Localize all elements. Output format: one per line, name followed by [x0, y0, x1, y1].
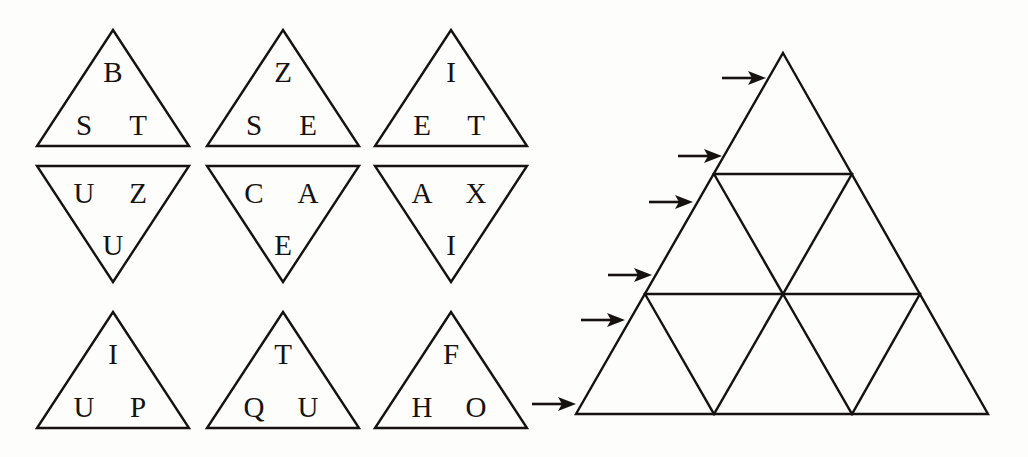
tile-letter-right: O: [466, 391, 487, 423]
tile-letter-apex: E: [274, 229, 292, 261]
tile-r3c2: T Q U: [207, 312, 359, 428]
tile-letter-apex: U: [103, 229, 124, 261]
tile-letter-left: H: [412, 391, 433, 423]
triangle-outline-down: [37, 166, 189, 282]
tile-r3c1: I U P: [37, 312, 189, 428]
tile-r2c3: A X I: [375, 166, 527, 282]
grid-line-left-lean-3: [783, 294, 852, 414]
big-triangle-outline: [576, 53, 988, 414]
tile-letter-left: S: [76, 109, 92, 141]
grid-line-right-lean-1: [783, 174, 852, 294]
tile-letter-apex: T: [274, 338, 292, 370]
triangle-outline-up: [375, 312, 527, 428]
tile-letter-right: T: [467, 109, 485, 141]
tile-letter-apex: I: [108, 338, 118, 370]
tile-letter-apex: Z: [274, 56, 292, 88]
tile-letter-right: P: [130, 391, 146, 423]
triangle-outline-up: [207, 30, 359, 146]
grid-line-left-lean-1: [714, 174, 783, 294]
tile-letter-left: U: [74, 391, 95, 423]
tile-letter-apex: I: [446, 229, 456, 261]
triangle-outline-down: [207, 166, 359, 282]
tile-r2c1: U Z U: [37, 166, 189, 282]
puzzle-figure: B S T Z S E I E T U Z U C A: [0, 0, 1028, 457]
tile-r3c3: F H O: [375, 312, 527, 428]
lettered-triangle-grid: B S T Z S E I E T U Z U C A: [37, 30, 527, 428]
subdivided-triangle-diagram: [532, 53, 988, 414]
tile-letter-left: Q: [244, 391, 265, 423]
grid-line-right-lean-2: [714, 294, 783, 414]
tile-letter-left: C: [244, 177, 263, 209]
triangle-outline-down: [375, 166, 527, 282]
tile-letter-apex: F: [443, 338, 459, 370]
grid-line-left-lean-2: [645, 294, 714, 414]
triangle-outline-up: [37, 30, 189, 146]
tile-r2c2: C A E: [207, 166, 359, 282]
arrow-3: [649, 195, 693, 209]
tile-letter-apex: I: [446, 56, 456, 88]
arrow-5: [581, 313, 625, 327]
tile-letter-left: U: [74, 177, 95, 209]
arrow-6: [532, 397, 576, 411]
arrow-2: [678, 149, 722, 163]
triangle-outline-up: [207, 312, 359, 428]
tile-letter-left: S: [246, 109, 262, 141]
tile-letter-right: X: [466, 177, 487, 209]
triangle-outline-up: [37, 312, 189, 428]
triangle-outline-up: [375, 30, 527, 146]
tile-r1c1: B S T: [37, 30, 189, 146]
tile-letter-right: Z: [129, 177, 147, 209]
tile-letter-right: T: [129, 109, 147, 141]
grid-line-right-lean-3: [852, 294, 920, 414]
tile-r1c3: I E T: [375, 30, 527, 146]
tile-r1c2: Z S E: [207, 30, 359, 146]
tile-letter-left: A: [412, 177, 433, 209]
tile-letter-right: A: [298, 177, 319, 209]
tile-letter-right: U: [298, 391, 319, 423]
tile-letter-left: E: [413, 109, 431, 141]
tile-letter-apex: B: [103, 56, 122, 88]
tile-letter-right: E: [299, 109, 317, 141]
arrow-1: [722, 71, 766, 85]
arrow-4: [608, 268, 652, 282]
